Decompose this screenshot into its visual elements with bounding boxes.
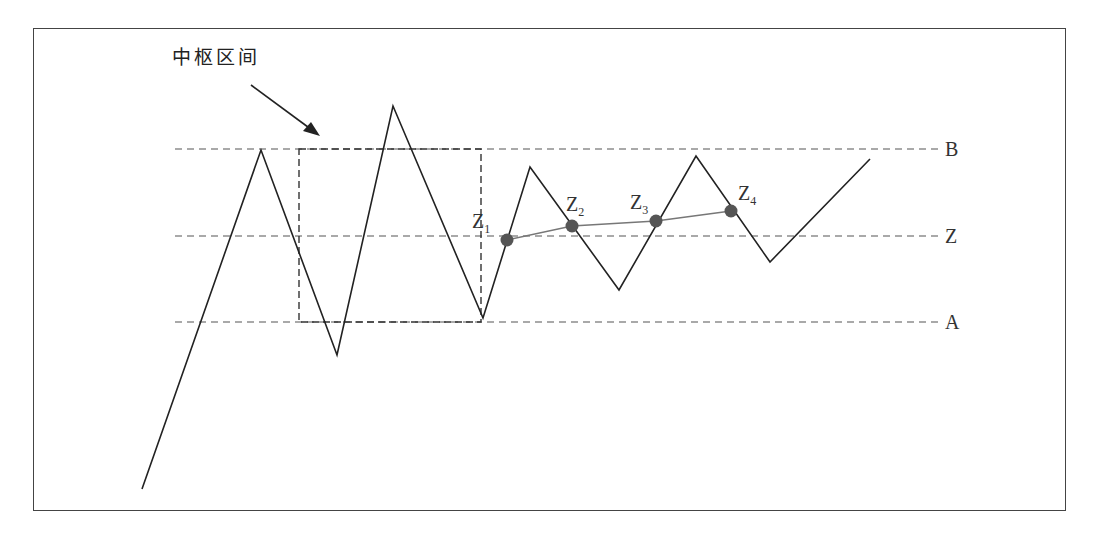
price-zigzag-line (142, 106, 870, 489)
z4-point (725, 205, 738, 218)
level-lines (175, 149, 938, 322)
zhongshu-diagram: Z1 Z2 Z3 Z4 B Z A 中枢区间 (0, 0, 1098, 540)
z2-label: Z2 (566, 193, 584, 219)
z3-point (650, 215, 663, 228)
z2-point (566, 220, 579, 233)
level-label-b: B (945, 138, 958, 160)
z4-label: Z4 (738, 182, 756, 208)
pivot-range-annotation: 中枢区间 (172, 46, 260, 68)
level-label-a: A (945, 311, 960, 333)
level-label-z: Z (945, 225, 957, 247)
z3-label: Z3 (630, 191, 648, 217)
annotation-arrow-icon (251, 85, 320, 136)
z1-point (501, 234, 514, 247)
